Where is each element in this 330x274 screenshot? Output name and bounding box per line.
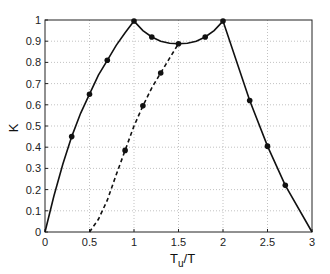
y-tick-label: 0.4 bbox=[26, 141, 41, 153]
data-point-marker bbox=[87, 91, 93, 97]
data-point-marker bbox=[220, 18, 226, 24]
data-point-marker bbox=[149, 34, 155, 40]
y-tick-label: 0.2 bbox=[26, 184, 41, 196]
y-tick-label: 0.7 bbox=[26, 78, 41, 90]
y-axis-label: K bbox=[6, 123, 21, 132]
data-point-marker bbox=[140, 103, 146, 109]
grid-lines bbox=[45, 20, 312, 232]
data-point-marker bbox=[105, 57, 111, 63]
x-tick-label: 1.5 bbox=[171, 236, 186, 248]
x-tick-label: 2 bbox=[220, 236, 226, 248]
data-point-marker bbox=[202, 34, 208, 40]
axis-ticks: 00.511.522.5300.10.20.30.40.50.60.70.80.… bbox=[26, 14, 315, 248]
y-tick-label: 0.8 bbox=[26, 56, 41, 68]
y-tick-label: 1 bbox=[35, 14, 41, 26]
data-point-marker bbox=[122, 148, 128, 154]
data-point-marker bbox=[69, 134, 75, 140]
y-tick-label: 0.3 bbox=[26, 162, 41, 174]
x-axis-label: Tu/T bbox=[170, 251, 195, 269]
x-tick-label: 0 bbox=[42, 236, 48, 248]
x-tick-label: 1 bbox=[131, 236, 137, 248]
x-tick-label: 2.5 bbox=[260, 236, 275, 248]
data-point-marker bbox=[283, 183, 289, 189]
y-tick-label: 0.9 bbox=[26, 35, 41, 47]
x-tick-label: 3 bbox=[309, 236, 315, 248]
y-tick-label: 0.1 bbox=[26, 205, 41, 217]
data-point-marker bbox=[247, 98, 253, 104]
x-tick-label: 0.5 bbox=[82, 236, 97, 248]
y-tick-label: 0.5 bbox=[26, 120, 41, 132]
y-tick-label: 0.6 bbox=[26, 99, 41, 111]
data-point-marker bbox=[265, 143, 271, 149]
data-point-marker bbox=[158, 70, 164, 76]
y-tick-label: 0 bbox=[35, 226, 41, 238]
chart: 00.511.522.5300.10.20.30.40.50.60.70.80.… bbox=[0, 0, 330, 274]
data-point-marker bbox=[131, 18, 137, 24]
